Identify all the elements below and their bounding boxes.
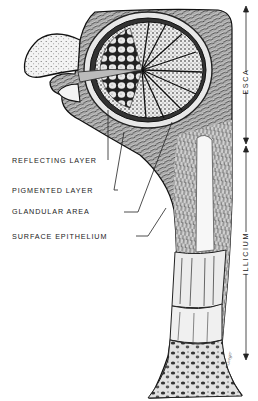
dimension-arrows <box>244 6 249 360</box>
label-surface-epithelium: SURFACE EPITHELIUM <box>12 233 107 240</box>
central-canal <box>196 135 214 252</box>
illicium-segment-lower <box>170 304 222 343</box>
label-reflecting-layer: REFLECTING LAYER <box>12 157 97 164</box>
anatomical-illustration <box>0 0 258 401</box>
illicium-base <box>148 340 242 398</box>
region-label-esca: ESCA <box>242 68 249 96</box>
label-pigmented-layer: PIGMENTED LAYER <box>12 187 93 194</box>
anterior-appendage <box>25 34 80 77</box>
label-glandular-area: GLANDULAR AREA <box>12 208 90 215</box>
region-label-illicium: ILLICIUM <box>242 230 249 278</box>
